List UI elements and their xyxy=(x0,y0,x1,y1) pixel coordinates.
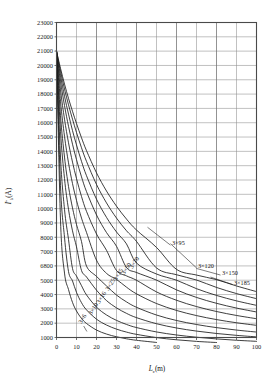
curve-label-3x120: 3×120 xyxy=(198,262,214,269)
y-tick-label: 3000 xyxy=(40,305,53,312)
y-tick-label: 1000 xyxy=(40,334,53,341)
y-tick-label: 20000 xyxy=(37,62,53,69)
y-tick-label: 4000 xyxy=(40,291,53,298)
y-tick-label: 8000 xyxy=(40,234,53,241)
y-tick-label: 7000 xyxy=(40,248,53,255)
y-tick-label: 15000 xyxy=(37,133,53,140)
x-tick-label: 30 xyxy=(113,343,119,350)
x-tick-label: 60 xyxy=(173,343,179,350)
y-tick-label: 12000 xyxy=(37,176,53,183)
x-tick-label: 70 xyxy=(193,343,199,350)
svg-text:I''k(A): I''k(A) xyxy=(5,187,14,205)
x-tick-label: 80 xyxy=(213,343,219,350)
x-tick-label: 40 xyxy=(133,343,139,350)
y-tick-label: 16000 xyxy=(37,119,53,126)
y-tick-label: 14000 xyxy=(37,148,53,155)
x-tick-label: 90 xyxy=(233,343,239,350)
y-tick-label: 2000 xyxy=(40,319,53,326)
y-axis-title: I''k(A) xyxy=(5,187,14,205)
y-tick-label: 11000 xyxy=(37,191,53,198)
y-tick-label: 22000 xyxy=(37,33,53,40)
curve-label-3x150: 3×150 xyxy=(222,269,238,276)
svg-text:Lc(m): Lc(m) xyxy=(148,365,166,374)
y-tick-label: 5000 xyxy=(40,277,53,284)
x-tick-label: 50 xyxy=(153,343,159,350)
y-tick-label: 19000 xyxy=(37,76,53,83)
x-axis-title: Lc(m) xyxy=(148,365,166,374)
y-tick-label: 23000 xyxy=(37,19,53,26)
y-tick-label: 21000 xyxy=(37,47,53,54)
y-tick-label: 10000 xyxy=(37,205,53,212)
y-tick-label: 9000 xyxy=(40,219,53,226)
x-tick-label: 100 xyxy=(252,343,262,350)
y-tick-label: 18000 xyxy=(37,90,53,97)
chart-figure: 1000200030004000500068007000800090001000… xyxy=(0,0,271,384)
y-tick-label: 6800 xyxy=(40,262,53,269)
curve-label-3x95: 3×95 xyxy=(172,239,185,246)
x-tick-label: 0 xyxy=(55,343,58,350)
short-circuit-current-vs-cable-length-chart: 1000200030004000500068007000800090001000… xyxy=(0,0,271,384)
x-tick-label: 10 xyxy=(73,343,79,350)
y-tick-label: 13000 xyxy=(37,162,53,169)
x-tick-label: 20 xyxy=(93,343,99,350)
y-tick-label: 17000 xyxy=(37,105,53,112)
curve-label-3x185: 3×185 xyxy=(234,279,250,286)
